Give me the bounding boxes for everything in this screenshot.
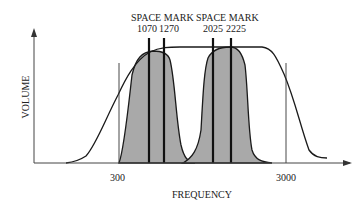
channel-2-space-label: 2025 [203, 24, 223, 34]
channel-1-title: SPACE MARK [131, 13, 194, 23]
x-tick-300: 300 [110, 173, 125, 183]
y-axis-arrow-icon [31, 28, 37, 37]
x-axis-arrow-icon [343, 160, 352, 166]
x-axis-label: FREQUENCY [172, 190, 232, 200]
channel-2-mark-label: 2225 [226, 24, 246, 34]
channel-2-band [183, 47, 272, 163]
y-axis-label: VOLUME [21, 76, 31, 119]
channel-1-space-label: 1070 [137, 24, 157, 34]
channel-1-band [119, 51, 195, 163]
passband-curve [66, 47, 327, 163]
frequency-diagram [0, 0, 364, 207]
channel-1-mark-label: 1270 [159, 24, 179, 34]
channel-2-title: SPACE MARK [196, 13, 259, 23]
x-tick-3000: 3000 [276, 173, 296, 183]
